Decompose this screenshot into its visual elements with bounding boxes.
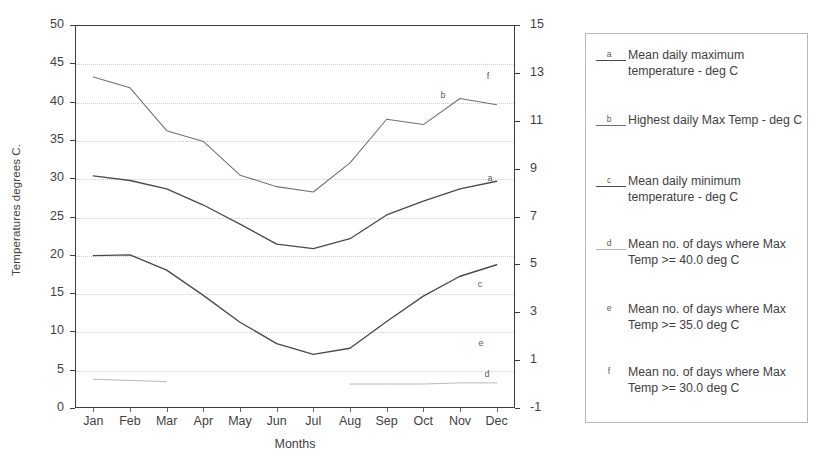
y-tick-label-left: 5	[57, 363, 64, 376]
legend-label: Mean no. of days where Max Temp >= 40.0 …	[628, 237, 804, 268]
y-tick-label-left: 45	[50, 56, 64, 69]
y-tick-label-right: 9	[530, 162, 537, 175]
series-line-a	[93, 176, 496, 249]
x-tickmark	[387, 408, 388, 412]
legend-key-e: e	[594, 304, 628, 320]
x-tick-label: Oct	[414, 414, 433, 428]
x-axis-ticklabels: JanFebMarAprMayJunJulAugSepOctNovDec	[75, 414, 515, 434]
series-tag-e: e	[478, 338, 483, 348]
x-tick-label: Sep	[376, 414, 398, 428]
legend-key-letter: b	[607, 114, 612, 124]
series-tag-c: c	[478, 279, 483, 289]
x-tickmark	[93, 408, 94, 412]
y-tickmark-left	[70, 370, 75, 371]
y-tickmark-right	[515, 169, 520, 170]
series-tag-b: b	[440, 90, 445, 100]
legend-line-swatch	[596, 60, 626, 61]
legend-entry-f[interactable]: fMean no. of days where Max Temp >= 30.0…	[594, 365, 804, 396]
y-tick-label-left: 50	[50, 18, 64, 31]
series-tag-a: a	[487, 173, 492, 183]
legend-label: Mean daily minimum temperature - deg C	[628, 174, 804, 205]
legend-label: Mean no. of days where Max Temp >= 30.0 …	[628, 365, 804, 396]
x-tick-label: Dec	[486, 414, 508, 428]
y-tick-label-left: 35	[50, 133, 64, 146]
x-tickmark	[130, 408, 131, 412]
legend-entry-e[interactable]: eMean no. of days where Max Temp >= 35.0…	[594, 302, 804, 333]
x-tick-label: Feb	[119, 414, 141, 428]
legend-key-f: f	[594, 367, 628, 383]
x-tickmark	[313, 408, 314, 412]
y-tickmark-right	[515, 217, 520, 218]
y-tickmark-right	[515, 25, 520, 26]
y-tick-label-left: 0	[57, 401, 64, 414]
legend-key-letter: e	[607, 303, 612, 313]
y-tick-label-left: 25	[50, 210, 64, 223]
y-axis-left-ticklabels: 05101520253035404550	[30, 25, 72, 408]
y-tickmark-right	[515, 312, 520, 313]
x-tickmark	[460, 408, 461, 412]
legend-key-a: a	[594, 50, 628, 66]
y-tickmark-right	[515, 360, 520, 361]
x-tickmark	[350, 408, 351, 412]
y-tickmark-left	[70, 255, 75, 256]
x-tick-label: Aug	[339, 414, 361, 428]
y-tickmark-left	[70, 25, 75, 26]
series-tag-d: d	[484, 369, 489, 379]
x-tickmark	[240, 408, 241, 412]
y-tickmark-right	[515, 73, 520, 74]
y-tickmark-right	[515, 121, 520, 122]
legend-label: Mean daily maximum temperature - deg C	[628, 48, 804, 79]
series-line-d	[93, 379, 166, 381]
y-tick-label-left: 20	[50, 248, 64, 261]
y-tick-label-right: 5	[530, 257, 537, 270]
x-axis-title: Months	[75, 437, 515, 451]
series-line-d	[350, 383, 497, 384]
y-tickmark-left	[70, 408, 75, 409]
series-line-c	[93, 255, 496, 355]
chart-plot-region: Temperatures degrees C. 0510152025303540…	[0, 0, 560, 471]
x-tickmark	[497, 408, 498, 412]
y-tickmark-right	[515, 264, 520, 265]
x-tickmark	[203, 408, 204, 412]
legend-line-swatch	[596, 249, 626, 250]
y-axis-title-text: Temperatures degrees C.	[10, 144, 22, 276]
legend-entry-d[interactable]: dMean no. of days where Max Temp >= 40.0…	[594, 237, 804, 268]
y-tickmark-left	[70, 293, 75, 294]
y-tick-label-left: 10	[50, 324, 64, 337]
x-tick-label: Jul	[305, 414, 321, 428]
legend-key-d: d	[594, 239, 628, 255]
y-tick-label-right: 1	[530, 353, 537, 366]
x-tick-label: Nov	[449, 414, 471, 428]
x-tickmark	[277, 408, 278, 412]
y-tick-label-left: 40	[50, 95, 64, 108]
y-tick-label-right: -1	[530, 401, 541, 414]
y-tickmark-left	[70, 178, 75, 179]
y-tick-label-right: 7	[530, 210, 537, 223]
legend-key-letter: c	[607, 175, 611, 185]
legend-line-swatch	[596, 125, 626, 126]
series-tag-f: f	[487, 71, 490, 81]
legend-entry-b[interactable]: bHighest daily Max Temp - deg C	[594, 113, 804, 131]
legend-key-letter: a	[607, 49, 612, 59]
legend-key-letter: d	[607, 238, 612, 248]
y-tickmark-left	[70, 331, 75, 332]
legend-entry-a[interactable]: aMean daily maximum temperature - deg C	[594, 48, 804, 79]
y-tickmark-left	[70, 217, 75, 218]
legend-key-c: c	[594, 176, 628, 192]
legend-entry-c[interactable]: cMean daily minimum temperature - deg C	[594, 174, 804, 205]
chart-figure: Temperatures degrees C. 0510152025303540…	[0, 0, 822, 471]
x-tickmark	[167, 408, 168, 412]
series-lines	[75, 25, 515, 408]
y-tickmark-right	[515, 408, 520, 409]
y-tick-label-right: 15	[530, 18, 544, 31]
y-axis-title: Temperatures degrees C.	[4, 0, 28, 420]
x-tick-label: Jan	[83, 414, 103, 428]
y-axis-right-ticklabels: -113579111315	[521, 25, 561, 408]
series-line-b	[93, 77, 496, 192]
legend-line-swatch	[596, 186, 626, 187]
y-tick-label-right: 3	[530, 305, 537, 318]
x-tick-label: Apr	[194, 414, 213, 428]
y-tickmark-left	[70, 140, 75, 141]
y-tickmark-left	[70, 102, 75, 103]
y-tick-label-right: 11	[530, 114, 543, 127]
